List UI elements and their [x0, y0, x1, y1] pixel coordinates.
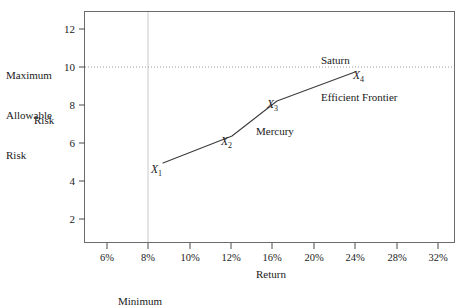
x-tick-label-6: 6%	[90, 252, 124, 264]
x-tick-label-28: 28%	[380, 252, 414, 264]
y-axis-title: Risk	[34, 114, 54, 127]
y-tick-label-8: 8	[51, 99, 75, 112]
y-tick-label-10: 10	[51, 61, 75, 74]
y-tick-label-4: 4	[51, 175, 75, 188]
max-allowable-risk-line-3: Risk	[6, 149, 52, 162]
x2-subscript: 2	[228, 141, 232, 150]
data-point-label-x3: X3	[267, 98, 278, 114]
x-tick-label-20: 20%	[297, 252, 331, 264]
mercury-annotation: Mercury	[256, 125, 294, 138]
x-tick-label-8: 8%	[131, 252, 165, 264]
x-axis-title: Return	[256, 268, 286, 281]
x-tick-label-16: 16%	[255, 252, 289, 264]
efficient-frontier-line	[163, 72, 355, 163]
x-tick-label-24: 24%	[338, 252, 372, 264]
data-point-label-x4: X4	[353, 69, 364, 85]
x-tick-label-32: 32%	[421, 252, 455, 264]
saturn-annotation: Saturn	[321, 54, 350, 67]
x1-subscript: 1	[158, 169, 162, 178]
x2-base: X	[221, 135, 228, 147]
efficient-frontier-chart: 12 10 8 6 4 2 6% 8% 10% 12% 16% 20% 24% …	[0, 0, 469, 307]
max-allowable-risk-line-1: Maximum	[6, 69, 52, 82]
x-tick-label-12: 12%	[214, 252, 248, 264]
y-tick-label-12: 12	[51, 23, 75, 36]
x4-subscript: 4	[360, 75, 364, 84]
data-point-label-x1: X1	[151, 163, 162, 179]
x1-base: X	[151, 163, 158, 175]
min-desired-return-line-1: Minimum	[118, 295, 162, 307]
minimum-desired-return-label: Minimum Desired Return	[118, 268, 162, 307]
data-point-label-x2: X2	[221, 135, 232, 151]
y-tick-label-2: 2	[51, 213, 75, 226]
x-tick-label-10: 10%	[173, 252, 207, 264]
y-tick-label-6: 6	[51, 137, 75, 150]
efficient-frontier-annotation: Efficient Frontier	[321, 91, 397, 104]
x4-base: X	[353, 69, 360, 81]
x3-subscript: 3	[274, 104, 278, 113]
x3-base: X	[267, 98, 274, 110]
x-axis-ticks	[107, 243, 438, 249]
